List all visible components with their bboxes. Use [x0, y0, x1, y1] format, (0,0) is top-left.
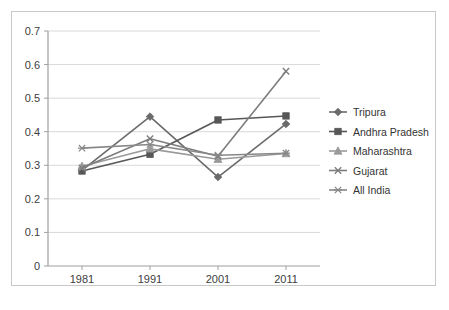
y-tick-label: 0.6 [25, 59, 40, 71]
y-tick-label: 0.1 [25, 226, 40, 238]
y-tick-label: 0 [34, 260, 40, 272]
data-point-square [283, 113, 289, 119]
data-point-asterisk [334, 187, 342, 193]
legend-label: Andhra Pradesh [353, 126, 429, 138]
y-tick-label: 0.4 [25, 126, 40, 138]
data-point-asterisk [78, 145, 86, 151]
chart-legend: TripuraAndhra PradeshMaharashtraGujaratA… [329, 106, 429, 196]
x-tick-label: 1981 [70, 273, 94, 285]
y-tick-label: 0.5 [25, 92, 40, 104]
series-line [82, 116, 286, 171]
legend-item-gujarat[interactable]: Gujarat [329, 165, 388, 177]
chart-figure: 00.10.20.30.40.50.60.71981199120012011Tr… [0, 0, 449, 310]
y-tick-label: 0.2 [25, 193, 40, 205]
data-point-square [215, 117, 221, 123]
legend-item-tripura[interactable]: Tripura [329, 106, 386, 118]
x-axis-labels: 1981199120012011 [70, 266, 298, 285]
legend-item-maharashtra[interactable]: Maharashtra [329, 145, 412, 157]
x-tick-label: 2001 [206, 273, 230, 285]
legend-item-andhra-pradesh[interactable]: Andhra Pradesh [329, 126, 429, 138]
data-point-triangle [146, 145, 154, 152]
x-tick-label: 2011 [274, 273, 298, 285]
data-point-cross [283, 68, 289, 74]
y-tick-label: 0.3 [25, 159, 40, 171]
legend-item-all-india[interactable]: All India [329, 184, 391, 196]
legend-label: Tripura [353, 106, 386, 118]
legend-label: All India [353, 184, 391, 196]
data-point-diamond [334, 108, 342, 116]
y-tick-label: 0.7 [25, 25, 40, 37]
x-tick-label: 1991 [138, 273, 162, 285]
line-chart: 00.10.20.30.40.50.60.71981199120012011Tr… [0, 0, 449, 310]
legend-label: Gujarat [353, 165, 388, 177]
data-point-square [335, 128, 341, 134]
legend-label: Maharashtra [353, 145, 412, 157]
